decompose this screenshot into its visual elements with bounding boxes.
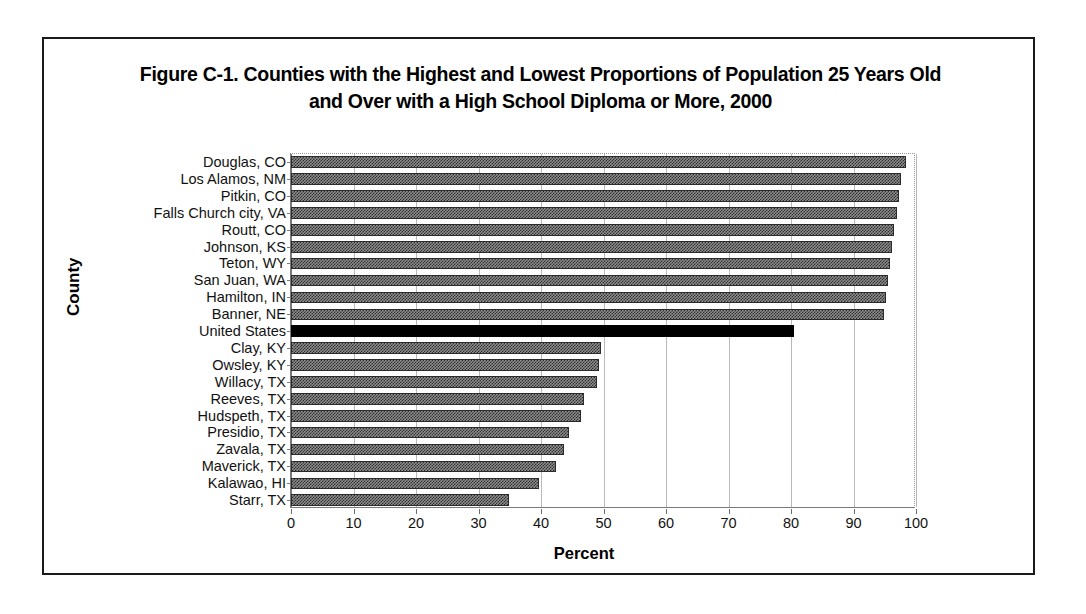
x-tick-label: 50: [583, 515, 625, 531]
figure-title: Figure C-1. Counties with the Highest an…: [74, 61, 1007, 115]
tick-mark-30: [479, 509, 480, 514]
chart-row: United States: [291, 323, 916, 340]
y-category-label: Falls Church city, VA: [154, 205, 286, 222]
x-tick-label: 90: [833, 515, 875, 531]
tick-mark-90: [854, 509, 855, 514]
tick-mark-0: [291, 509, 292, 514]
chart-row: Willacy, TX: [291, 374, 916, 391]
chart-row: Pitkin, CO: [291, 188, 916, 205]
chart-row: Routt, CO: [291, 222, 916, 239]
bar-clay-ky: [291, 342, 601, 354]
bar-pitkin-co: [291, 190, 899, 202]
chart-row: Los Alamos, NM: [291, 171, 916, 188]
bar-banner-ne: [291, 309, 884, 321]
figure-title-line-1: Figure C-1. Counties with the Highest an…: [74, 61, 1007, 88]
x-tick-label: 20: [395, 515, 437, 531]
y-category-label: Presidio, TX: [207, 424, 286, 441]
y-category-label: Teton, WY: [219, 255, 286, 272]
x-tick-label: 80: [770, 515, 812, 531]
tick-mark-20: [416, 509, 417, 514]
bar-owsley-ky: [291, 359, 599, 371]
chart-row: Starr, TX: [291, 492, 916, 509]
y-category-label: Routt, CO: [222, 222, 286, 239]
bar-los-alamos-nm: [291, 173, 901, 185]
y-category-label: Clay, KY: [231, 340, 286, 357]
bar-san-juan-wa: [291, 275, 888, 287]
chart-row: Kalawao, HI: [291, 475, 916, 492]
bar-johnson-ks: [291, 241, 892, 253]
y-category-label: San Juan, WA: [194, 272, 286, 289]
y-category-label: Willacy, TX: [215, 374, 286, 391]
y-category-label: Kalawao, HI: [208, 475, 286, 492]
bar-zavala-tx: [291, 444, 564, 456]
tick-mark-40: [541, 509, 542, 514]
bar-maverick-tx: [291, 461, 556, 473]
tick-mark-50: [604, 509, 605, 514]
tick-mark-60: [666, 509, 667, 514]
x-tick-label: 100: [895, 515, 937, 531]
bar-willacy-tx: [291, 376, 597, 388]
y-category-label: Banner, NE: [212, 306, 286, 323]
y-category-label: Pitkin, CO: [221, 188, 286, 205]
chart-row: Maverick, TX: [291, 458, 916, 475]
tick-mark-100: [916, 509, 917, 514]
chart-row: Clay, KY: [291, 340, 916, 357]
x-tick-label: 60: [645, 515, 687, 531]
tick-mark-80: [791, 509, 792, 514]
y-category-label: Starr, TX: [229, 492, 286, 509]
bar-routt-co: [291, 224, 894, 236]
x-tick-label: 30: [458, 515, 500, 531]
tick-mark-70: [729, 509, 730, 514]
y-axis-title: County: [64, 292, 84, 316]
bar-reeves-tx: [291, 393, 584, 405]
chart-row: Johnson, KS: [291, 239, 916, 256]
chart-row: Douglas, CO: [291, 154, 916, 171]
x-tick-label: 0: [270, 515, 312, 531]
bar-hamilton-in: [291, 292, 886, 304]
x-tick-label: 70: [708, 515, 750, 531]
bar-united-states: [291, 325, 794, 337]
chart-row: Falls Church city, VA: [291, 205, 916, 222]
bar-kalawao-hi: [291, 478, 539, 490]
figure-frame: Figure C-1. Counties with the Highest an…: [42, 37, 1035, 575]
y-category-label: United States: [199, 323, 286, 340]
bar-hudspeth-tx: [291, 410, 581, 422]
y-category-label: Reeves, TX: [211, 391, 287, 408]
figure-title-line-2: and Over with a High School Diploma or M…: [74, 88, 1007, 115]
chart-row: Reeves, TX: [291, 391, 916, 408]
bar-falls-church-city-va: [291, 207, 897, 219]
x-axis-title: Percent: [274, 544, 894, 563]
y-category-label: Hudspeth, TX: [198, 408, 286, 425]
x-tick-label: 40: [520, 515, 562, 531]
y-category-label: Los Alamos, NM: [180, 171, 286, 188]
y-category-label: Zavala, TX: [216, 441, 286, 458]
y-category-label: Maverick, TX: [202, 458, 286, 475]
tick-mark-10: [354, 509, 355, 514]
chart-row: Hudspeth, TX: [291, 408, 916, 425]
y-category-label: Johnson, KS: [204, 239, 286, 256]
plot-area: 0102030405060708090100 Douglas, COLos Al…: [290, 153, 915, 508]
bar-presidio-tx: [291, 427, 569, 439]
x-tick-label: 10: [333, 515, 375, 531]
bar-teton-wy: [291, 258, 890, 270]
chart-row: Presidio, TX: [291, 424, 916, 441]
chart-row: Zavala, TX: [291, 441, 916, 458]
y-category-label: Hamilton, IN: [206, 289, 286, 306]
y-category-label: Owsley, KY: [212, 357, 286, 374]
chart-row: Banner, NE: [291, 306, 916, 323]
gridline-100: [916, 154, 917, 507]
chart-row: Hamilton, IN: [291, 289, 916, 306]
bar-douglas-co: [291, 156, 906, 168]
chart-row: San Juan, WA: [291, 272, 916, 289]
bar-starr-tx: [291, 494, 509, 506]
chart-row: Owsley, KY: [291, 357, 916, 374]
y-category-label: Douglas, CO: [203, 154, 286, 171]
chart-row: Teton, WY: [291, 255, 916, 272]
